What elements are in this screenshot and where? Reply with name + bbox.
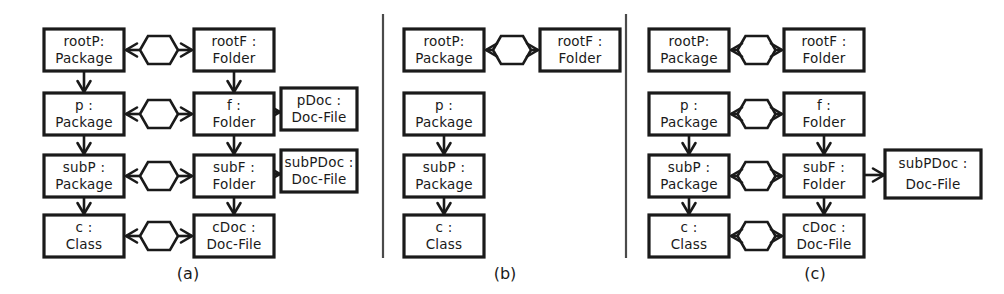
- object-node[interactable]: rootF :Folder: [540, 29, 620, 71]
- node-label-type: Package: [660, 176, 717, 192]
- hexagon-icon: [140, 100, 178, 128]
- containment-link[interactable]: [228, 71, 241, 92]
- node-label-instance: rootP:: [64, 33, 105, 49]
- correspondence-link[interactable]: [126, 162, 192, 190]
- node-label-type: Doc-File: [796, 236, 851, 252]
- node-label-instance: p :: [435, 97, 453, 113]
- containment-link[interactable]: [78, 197, 91, 214]
- correspondence-link[interactable]: [126, 222, 192, 250]
- node-label-instance: cDoc :: [802, 219, 846, 235]
- object-node[interactable]: subP :Package: [649, 155, 729, 197]
- object-node[interactable]: cDoc :Doc-File: [784, 215, 864, 257]
- node-label-instance: rootF :: [801, 33, 846, 49]
- containment-link[interactable]: [228, 197, 241, 214]
- object-node[interactable]: f :Folder: [784, 93, 864, 135]
- correspondence-link[interactable]: [126, 100, 192, 128]
- node-label-instance: rootF :: [557, 33, 602, 49]
- node-label-instance: c :: [681, 219, 698, 235]
- object-node[interactable]: subF :Folder: [194, 155, 274, 197]
- hexagon-icon: [738, 36, 776, 64]
- containment-link[interactable]: [438, 197, 451, 214]
- node-label-instance: f :: [817, 97, 831, 113]
- node-label-type: Doc-File: [905, 176, 960, 192]
- panel-caption: (c): [804, 264, 825, 283]
- containment-link[interactable]: [683, 197, 696, 214]
- object-node[interactable]: rootF :Folder: [194, 29, 274, 71]
- node-label-instance: subPDoc :: [898, 155, 967, 171]
- object-node[interactable]: c :Class: [44, 215, 124, 257]
- containment-link[interactable]: [78, 135, 91, 154]
- hexagon-icon: [140, 162, 178, 190]
- node-label-instance: cDoc :: [212, 219, 256, 235]
- object-node[interactable]: subP :Package: [44, 155, 124, 197]
- object-node[interactable]: c :Class: [649, 215, 729, 257]
- panel-caption: (a): [177, 264, 199, 283]
- node-label-type: Package: [415, 114, 472, 130]
- node-label-type: Folder: [803, 50, 846, 66]
- node-label-instance: rootF :: [211, 33, 256, 49]
- correspondence-link[interactable]: [731, 162, 782, 190]
- object-node[interactable]: cDoc :Doc-File: [194, 215, 274, 257]
- node-label-type: Doc-File: [206, 236, 261, 252]
- object-node[interactable]: subF :Folder: [784, 155, 864, 197]
- object-node[interactable]: rootP:Package: [649, 29, 729, 71]
- node-label-type: Package: [660, 114, 717, 130]
- containment-link[interactable]: [818, 197, 831, 214]
- node-label-instance: p :: [75, 97, 93, 113]
- hexagon-icon: [140, 222, 178, 250]
- node-label-instance: c :: [436, 219, 453, 235]
- object-node[interactable]: pDoc :Doc-File: [281, 88, 357, 130]
- containment-link[interactable]: [864, 169, 884, 182]
- node-label-type: Class: [66, 236, 103, 252]
- node-label-type: Class: [426, 236, 463, 252]
- hexagon-icon: [738, 162, 776, 190]
- node-label-instance: f :: [227, 97, 241, 113]
- node-label-instance: p :: [680, 97, 698, 113]
- object-node[interactable]: f :Folder: [194, 93, 274, 135]
- correspondence-link[interactable]: [731, 100, 782, 128]
- node-label-instance: subP :: [63, 159, 105, 175]
- correspondence-link[interactable]: [731, 222, 782, 250]
- object-node[interactable]: p :Package: [404, 93, 484, 135]
- object-node[interactable]: p :Package: [649, 93, 729, 135]
- containment-link[interactable]: [228, 135, 241, 154]
- node-label-type: Package: [55, 176, 112, 192]
- diagram-canvas: rootP:PackagerootF :Folderp :Packagef :F…: [0, 0, 1004, 294]
- correspondence-link[interactable]: [731, 36, 782, 64]
- object-node[interactable]: subPDoc :Doc-File: [281, 150, 357, 192]
- node-label-instance: rootP:: [669, 33, 710, 49]
- hexagon-icon: [738, 100, 776, 128]
- node-label-instance: subF :: [213, 159, 255, 175]
- object-node[interactable]: rootP:Package: [44, 29, 124, 71]
- panel-caption: (b): [494, 264, 517, 283]
- hexagon-icon: [493, 36, 531, 64]
- containment-link[interactable]: [818, 135, 831, 154]
- containment-link[interactable]: [438, 135, 451, 154]
- correspondence-link[interactable]: [486, 36, 538, 64]
- object-node[interactable]: subPDoc :Doc-File: [885, 150, 981, 198]
- node-label-instance: rootP:: [424, 33, 465, 49]
- object-node[interactable]: subP :Package: [404, 155, 484, 197]
- node-label-type: Folder: [559, 50, 602, 66]
- captions-layer: (a)(b)(c): [177, 264, 826, 283]
- node-label-type: Package: [55, 50, 112, 66]
- object-node[interactable]: p :Package: [44, 93, 124, 135]
- object-node[interactable]: c :Class: [404, 215, 484, 257]
- node-label-type: Package: [415, 176, 472, 192]
- node-label-type: Package: [55, 114, 112, 130]
- containment-link[interactable]: [683, 135, 696, 154]
- node-label-type: Package: [660, 50, 717, 66]
- containment-link[interactable]: [78, 71, 91, 92]
- node-label-instance: pDoc :: [297, 92, 342, 108]
- node-label-instance: subPDoc :: [284, 154, 353, 170]
- node-label-type: Doc-File: [291, 171, 346, 187]
- node-label-instance: subP :: [668, 159, 710, 175]
- hexagon-icon: [140, 36, 178, 64]
- node-label-type: Class: [671, 236, 708, 252]
- correspondence-link[interactable]: [126, 36, 192, 64]
- object-node[interactable]: rootF :Folder: [784, 29, 864, 71]
- node-label-type: Folder: [803, 176, 846, 192]
- object-node[interactable]: rootP:Package: [404, 29, 484, 71]
- node-label-instance: c :: [76, 219, 93, 235]
- node-label-type: Folder: [213, 176, 256, 192]
